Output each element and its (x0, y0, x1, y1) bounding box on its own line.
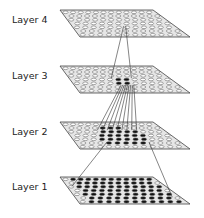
node (116, 189, 121, 192)
node (63, 11, 68, 14)
node (116, 67, 121, 70)
node (77, 19, 82, 22)
node (91, 193, 96, 196)
node (91, 26, 96, 29)
node (140, 78, 145, 81)
node (124, 178, 129, 181)
node (80, 34, 85, 37)
node (78, 67, 83, 70)
node (83, 26, 88, 29)
node (124, 71, 129, 74)
node (124, 201, 129, 204)
node (100, 26, 105, 29)
node (157, 131, 162, 134)
node (148, 134, 153, 137)
node (89, 90, 94, 93)
node (77, 75, 82, 78)
node (175, 142, 180, 145)
node (116, 26, 121, 29)
layer-stack-diagram (0, 0, 204, 218)
node (141, 193, 146, 196)
node (78, 11, 83, 14)
node (132, 86, 137, 89)
node (63, 67, 68, 70)
node (116, 15, 121, 18)
node (141, 197, 146, 200)
node (132, 189, 137, 192)
node (167, 138, 172, 141)
node (92, 71, 97, 74)
node (85, 19, 90, 22)
node (106, 34, 111, 37)
node (125, 138, 130, 141)
node (139, 123, 144, 126)
node (85, 71, 90, 74)
node (175, 30, 180, 33)
node (125, 26, 130, 29)
node (131, 71, 136, 74)
node (98, 86, 103, 89)
node (141, 75, 146, 78)
node (149, 197, 154, 200)
node (115, 201, 120, 204)
node (158, 193, 163, 196)
node (80, 90, 85, 93)
node (115, 142, 120, 145)
node (158, 30, 163, 33)
node (74, 138, 79, 141)
node (133, 131, 138, 134)
node (89, 201, 94, 204)
node (157, 186, 162, 189)
node (124, 189, 129, 192)
node (150, 90, 155, 93)
node (147, 67, 152, 70)
node (86, 123, 91, 126)
node (147, 71, 152, 74)
node (131, 182, 136, 185)
node (108, 182, 113, 185)
node (117, 186, 122, 189)
node (77, 15, 82, 18)
node (116, 11, 121, 14)
node (141, 186, 146, 189)
node (80, 146, 85, 149)
node (150, 26, 155, 29)
node (98, 142, 103, 145)
node (71, 67, 76, 70)
node (89, 142, 94, 145)
node (91, 82, 96, 85)
node (125, 19, 130, 22)
node (125, 186, 130, 189)
node (100, 193, 105, 196)
node (81, 86, 86, 89)
node (106, 30, 111, 33)
node (141, 138, 146, 141)
node (116, 193, 121, 196)
node (157, 78, 162, 81)
node (124, 123, 129, 126)
node (124, 11, 129, 14)
node (131, 67, 136, 70)
node (83, 134, 88, 137)
node (83, 82, 88, 85)
node (141, 142, 146, 145)
node (108, 22, 113, 25)
node (89, 34, 94, 37)
node (83, 138, 88, 141)
node (132, 134, 137, 137)
node (116, 182, 121, 185)
node (141, 201, 146, 204)
node (140, 134, 145, 137)
node (109, 131, 114, 134)
node (75, 78, 80, 81)
node (91, 189, 96, 192)
node (74, 82, 79, 85)
node (100, 82, 105, 85)
node (77, 131, 82, 134)
node (109, 186, 114, 189)
node (165, 22, 170, 25)
node (89, 86, 94, 89)
node (108, 82, 113, 85)
node (133, 146, 138, 149)
node (149, 131, 154, 134)
